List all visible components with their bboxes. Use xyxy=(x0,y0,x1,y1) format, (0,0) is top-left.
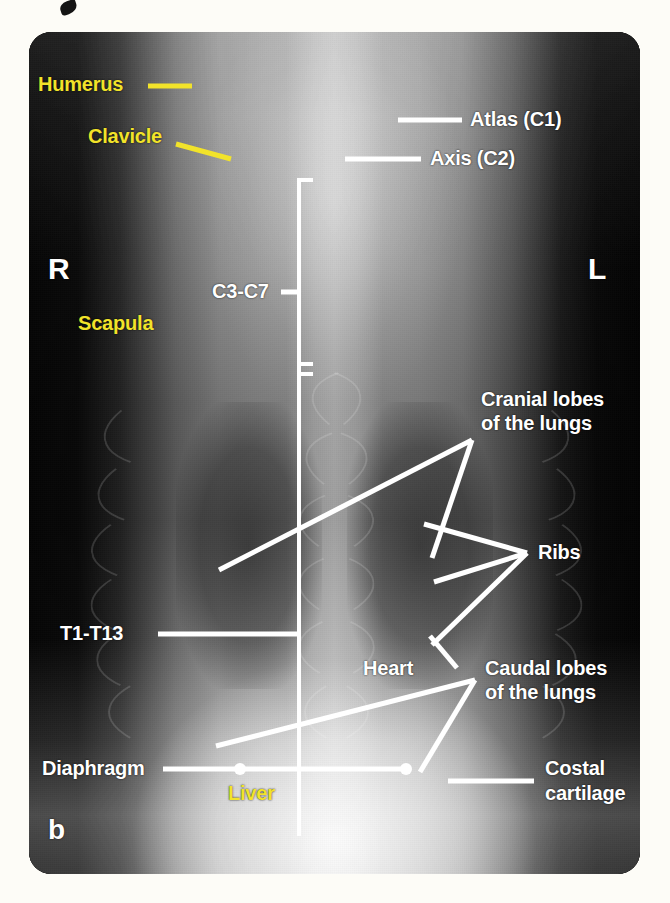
film-grain xyxy=(29,32,640,874)
stray-ink-mark xyxy=(58,0,78,16)
radiograph-figure: Humerus Clavicle Scapula R L Atlas (C1) … xyxy=(0,0,670,903)
radiograph-plate xyxy=(29,32,640,874)
